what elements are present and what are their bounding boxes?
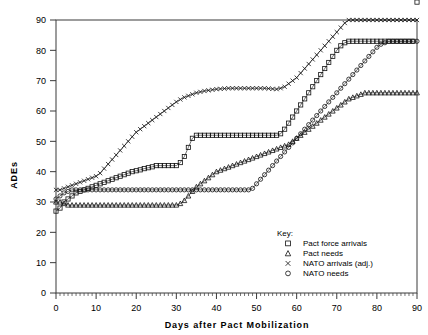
legend-item-label: NATO needs: [303, 269, 349, 278]
y-tick-label: 20: [36, 228, 46, 238]
x-tick-label: 80: [372, 303, 382, 313]
x-tick-label: 90: [412, 303, 422, 313]
legend-title: Key:: [277, 229, 293, 238]
y-tick-label: 70: [36, 76, 46, 86]
y-tick-label: 80: [36, 46, 46, 56]
y-tick-label: 30: [36, 197, 46, 207]
x-tick-label: 50: [252, 303, 262, 313]
chart-figure: 0102030405060708090 0102030405060708090 …: [0, 0, 428, 335]
x-tick-label: 20: [131, 303, 141, 313]
y-tick-label: 0: [41, 288, 46, 298]
y-tick-label: 50: [36, 137, 46, 147]
chart-canvas: 0102030405060708090 0102030405060708090 …: [0, 0, 428, 335]
legend-item-label: Pact needs: [303, 249, 343, 258]
legend-item-label: NATO arrivals (adj.): [303, 259, 373, 268]
y-tick-label: 40: [36, 167, 46, 177]
x-axis-label: Days after Pact Mobilization: [165, 320, 310, 330]
x-tick-label: 10: [91, 303, 101, 313]
legend-item-label: Pact force arrivals: [303, 239, 367, 248]
y-tick-label: 90: [36, 15, 46, 25]
x-tick-label: 40: [211, 303, 221, 313]
x-tick-label: 60: [292, 303, 302, 313]
x-tick-label: 0: [53, 303, 58, 313]
x-tick-label: 70: [332, 303, 342, 313]
chart-background: [0, 0, 428, 335]
y-tick-label: 60: [36, 106, 46, 116]
x-tick-label: 30: [171, 303, 181, 313]
y-tick-label: 10: [36, 258, 46, 268]
y-axis-label: ADEs: [9, 161, 19, 189]
